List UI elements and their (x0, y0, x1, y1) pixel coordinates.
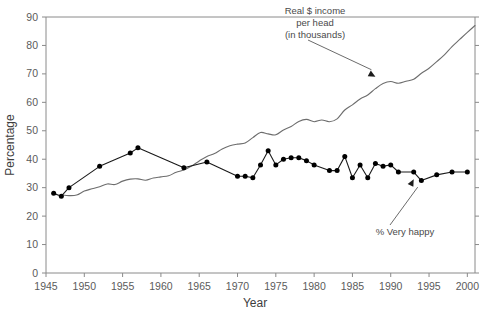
x-tick-label: 1965 (188, 280, 212, 292)
data-point-marker (128, 150, 133, 155)
x-tick-label: 2000 (456, 280, 480, 292)
data-point-marker (411, 170, 416, 175)
y-tick-label: 80 (26, 39, 38, 51)
data-point-marker (381, 164, 386, 169)
data-point-marker (373, 161, 378, 166)
y-tick-label: 60 (26, 96, 38, 108)
data-point-marker (335, 168, 340, 173)
happiness-annotation-leader (390, 187, 418, 225)
data-point-marker (388, 162, 393, 167)
data-point-marker (358, 162, 363, 167)
income-annotation-line: Real $ income (285, 5, 346, 16)
chart-plot-area: 0102030405060708090 19451950195519601965… (0, 0, 494, 319)
y-axis-title: Percentage (3, 114, 17, 176)
y-tick-label: 20 (26, 210, 38, 222)
x-tick-label: 1970 (226, 280, 250, 292)
data-point-marker (250, 175, 255, 180)
data-point-marker (281, 157, 286, 162)
y-tick-label: 40 (26, 153, 38, 165)
data-point-marker (273, 162, 278, 167)
x-tick-label: 1980 (302, 280, 326, 292)
data-point-marker (434, 172, 439, 177)
data-series (51, 26, 475, 199)
annotation-arrowhead (368, 71, 376, 77)
happiness-annotation-line: % Very happy (376, 226, 435, 237)
x-tick-label: 1955 (111, 280, 135, 292)
x-tick-label: 1975 (264, 280, 288, 292)
data-point-marker (342, 154, 347, 159)
data-point-marker (135, 145, 140, 150)
data-point-marker (235, 174, 240, 179)
x-tick-label: 1985 (341, 280, 365, 292)
data-point-marker (51, 191, 56, 196)
data-point-marker (419, 178, 424, 183)
data-point-marker (327, 168, 332, 173)
income-annotation-line: (in thousands) (285, 29, 345, 40)
x-tick-label: 1990 (379, 280, 403, 292)
x-tick-label: 1945 (34, 280, 58, 292)
data-point-marker (296, 155, 301, 160)
income-annotation-line: per head (296, 17, 334, 28)
data-point-marker (97, 164, 102, 169)
y-tick-label: 70 (26, 67, 38, 79)
y-axis-ticks: 0102030405060708090 (26, 11, 479, 279)
y-tick-label: 10 (26, 238, 38, 250)
x-axis-ticks: 1945195019551960196519701975198019851990… (34, 273, 479, 292)
data-point-marker (258, 162, 263, 167)
data-point-marker (181, 165, 186, 170)
x-tick-label: 1995 (417, 280, 441, 292)
y-tick-label: 90 (26, 11, 38, 23)
data-point-marker (465, 170, 470, 175)
data-point-marker (450, 170, 455, 175)
chart-annotations: Real $ incomeper head(in thousands)% Ver… (285, 5, 435, 237)
data-point-marker (204, 160, 209, 165)
data-point-marker (59, 194, 64, 199)
data-point-marker (312, 162, 317, 167)
x-tick-label: 1950 (73, 280, 97, 292)
y-tick-label: 30 (26, 181, 38, 193)
x-axis-title: Year (243, 296, 267, 310)
data-point-marker (289, 155, 294, 160)
annotation-arrowhead (408, 179, 414, 187)
data-point-marker (243, 174, 248, 179)
y-tick-label: 50 (26, 124, 38, 136)
data-point-marker (304, 158, 309, 163)
x-tick-label: 1960 (149, 280, 173, 292)
chart-figure: 0102030405060708090 19451950195519601965… (0, 0, 494, 319)
data-point-marker (66, 185, 71, 190)
income-annotation-leader (308, 40, 371, 70)
y-tick-label: 0 (32, 267, 38, 279)
data-point-marker (266, 148, 271, 153)
data-point-marker (365, 175, 370, 180)
data-point-marker (350, 175, 355, 180)
series-line-happy (54, 148, 468, 196)
data-point-marker (396, 170, 401, 175)
